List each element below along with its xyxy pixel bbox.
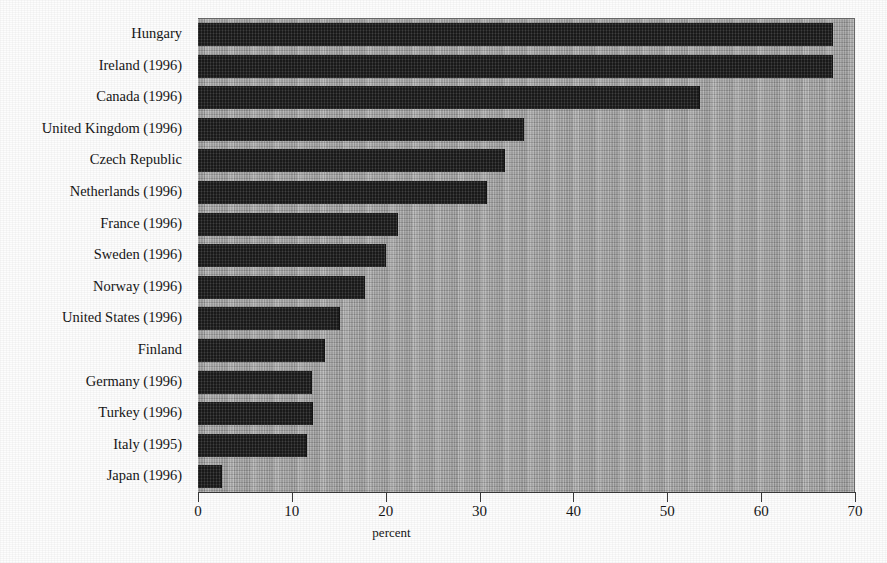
x-axis-tick [667, 493, 668, 502]
bar [198, 307, 340, 330]
bar [198, 181, 487, 204]
x-axis-tick-label: 20 [378, 503, 393, 520]
plot-area [198, 18, 855, 492]
bar-row [198, 145, 854, 177]
y-axis-tick-label: Japan (1996) [107, 460, 182, 492]
y-axis-tick-label: Germany (1996) [86, 366, 182, 398]
bar [198, 213, 398, 236]
x-axis-line [198, 492, 856, 493]
bar [198, 244, 386, 267]
y-axis-tick-label: Hungary [131, 18, 182, 50]
bar [198, 23, 833, 46]
chart-page: HungaryIreland (1996)Canada (1996)United… [0, 0, 887, 563]
x-axis-tick-label: 30 [472, 503, 487, 520]
x-axis-title-text: percent [372, 525, 410, 540]
y-axis-tick-label: Norway (1996) [93, 271, 182, 303]
bar-row [198, 19, 854, 51]
bar-row [198, 177, 854, 209]
x-axis-tick [386, 493, 387, 502]
x-axis-tick [761, 493, 762, 502]
x-axis-tick [480, 493, 481, 502]
bar [198, 149, 505, 172]
bar-row [198, 430, 854, 462]
bar-row [198, 114, 854, 146]
x-axis-tick-label: 70 [848, 503, 863, 520]
x-axis-tick-label: 0 [194, 503, 202, 520]
bar [198, 118, 524, 141]
y-axis-tick-label: France (1996) [100, 208, 182, 240]
y-axis-tick-label: Ireland (1996) [99, 50, 182, 82]
x-axis-tick-label: 40 [566, 503, 581, 520]
bar-row [198, 335, 854, 367]
x-axis-tick [198, 493, 199, 502]
y-axis-tick-label: United Kingdom (1996) [42, 113, 182, 145]
y-axis-tick-label: Czech Republic [90, 144, 182, 176]
bar-row [198, 82, 854, 114]
bar-row [198, 272, 854, 304]
x-axis-title: percent [0, 525, 887, 541]
bar [198, 339, 325, 362]
y-axis-tick-label: Canada (1996) [96, 81, 182, 113]
y-axis-tick-label: Finland [138, 334, 182, 366]
bar-row [198, 209, 854, 241]
y-axis-tick-label: Sweden (1996) [94, 239, 182, 271]
bar [198, 402, 313, 425]
y-axis-tick-label: Netherlands (1996) [70, 176, 182, 208]
bar-row [198, 303, 854, 335]
bar [198, 276, 365, 299]
bar-row [198, 398, 854, 430]
bar [198, 371, 312, 394]
x-axis-tick [573, 493, 574, 502]
bar-row [198, 51, 854, 83]
x-axis-tick-label: 10 [284, 503, 299, 520]
bar-row [198, 240, 854, 272]
x-axis-tick-label: 50 [660, 503, 675, 520]
bar [198, 55, 833, 78]
bar [198, 86, 700, 109]
bar [198, 434, 307, 457]
bar [198, 465, 222, 488]
x-axis-tick-label: 60 [754, 503, 769, 520]
y-axis-tick-label: United States (1996) [62, 302, 182, 334]
y-axis-label-group: HungaryIreland (1996)Canada (1996)United… [0, 18, 190, 492]
bar-row [198, 461, 854, 493]
x-axis-tick [855, 493, 856, 502]
y-axis-tick-label: Italy (1995) [113, 429, 182, 461]
y-axis-tick-label: Turkey (1996) [98, 397, 182, 429]
x-axis-tick [292, 493, 293, 502]
bar-row [198, 367, 854, 399]
